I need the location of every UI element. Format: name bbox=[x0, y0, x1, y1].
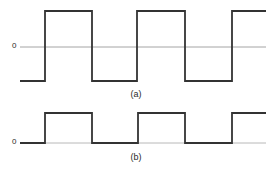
panel-caption-b: (b) bbox=[110, 153, 162, 162]
zero-axis-label-b: 0 bbox=[12, 138, 16, 146]
figure-container: 0 (a) 0 (b) bbox=[0, 0, 270, 177]
waveform-trace-b bbox=[20, 113, 266, 143]
zero-axis-label-a: 0 bbox=[12, 42, 16, 50]
panel-caption-a: (a) bbox=[110, 90, 162, 99]
waveform-trace-a bbox=[20, 11, 266, 81]
